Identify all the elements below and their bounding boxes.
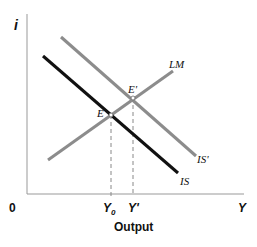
y-axis-label: i xyxy=(14,17,18,33)
is-label: IS xyxy=(180,175,189,187)
origin-label: 0 xyxy=(9,201,16,215)
tick-label-y0: Y0 xyxy=(103,201,115,217)
is-prime-label: IS' xyxy=(197,153,209,165)
equilibrium-point-e-prime xyxy=(131,96,135,100)
equilibrium-point-e xyxy=(109,113,113,117)
tick-label-yprime: Y' xyxy=(128,201,139,215)
is-lm-diagram: i 0 Y Output Y0 Y' LM IS' IS E E' xyxy=(0,0,257,247)
x-axis-label: Y xyxy=(238,201,246,215)
x-axis-title: Output xyxy=(114,220,153,234)
point-e-label: E xyxy=(97,107,104,119)
lm-label: LM xyxy=(169,58,184,70)
point-e-prime-label: E' xyxy=(128,83,137,95)
